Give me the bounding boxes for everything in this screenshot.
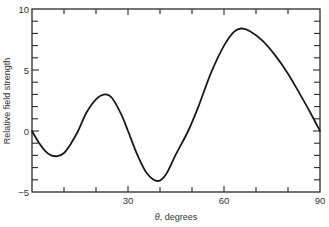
- field-strength-curve: [32, 28, 320, 181]
- y-tick-label: −5: [18, 187, 29, 198]
- x-axis-ticks: [64, 9, 288, 192]
- x-axis-title-text: , degrees: [160, 212, 198, 222]
- x-axis-tick-labels: 306090: [123, 195, 326, 206]
- data-series: [32, 28, 320, 181]
- y-axis-tick-labels: −50510: [18, 4, 29, 198]
- chart: 306090 −50510 θ, degrees Relative field …: [0, 0, 329, 227]
- x-tick-label: 60: [219, 195, 230, 206]
- x-axis-title: θ, degrees: [155, 212, 198, 222]
- x-tick-label: 30: [123, 195, 134, 206]
- plot-frame: [32, 9, 320, 192]
- x-tick-label: 90: [315, 195, 326, 206]
- y-tick-label: 5: [24, 65, 29, 76]
- y-tick-label: 0: [24, 126, 29, 137]
- y-tick-label: 10: [18, 4, 29, 15]
- plot-border: [32, 9, 320, 192]
- y-axis-title: Relative field strength: [2, 58, 12, 145]
